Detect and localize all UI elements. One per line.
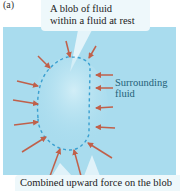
surrounding-fluid-label: Surrounding fluid [115, 77, 168, 99]
surrounding-label-line1: Surrounding [115, 77, 168, 88]
callout-blob-line2: within a fluid at rest [50, 15, 135, 27]
surrounding-label-line2: fluid [115, 88, 168, 99]
callout-upward-force-text: Combined upward force on the blob [20, 177, 172, 189]
callout-blob-text: A blob of fluid within a fluid at rest [50, 3, 135, 27]
callout-blob-line1: A blob of fluid [50, 3, 135, 15]
callout-bottom-pointer-right [84, 155, 100, 176]
